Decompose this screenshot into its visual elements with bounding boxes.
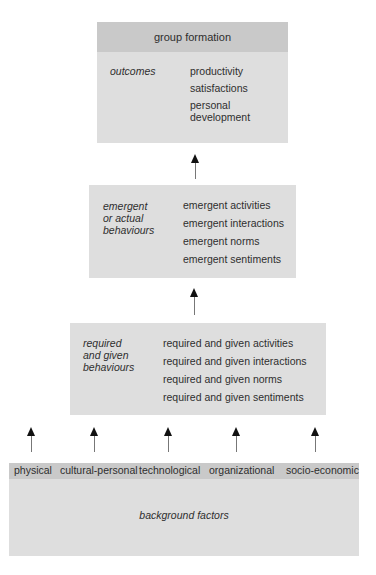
up-arrow-icon bbox=[191, 154, 200, 179]
required-item: required and given interactions bbox=[163, 355, 307, 368]
up-arrow-icon bbox=[27, 427, 36, 452]
factor-organizational: organizational bbox=[209, 464, 274, 477]
factor-physical: physical bbox=[14, 464, 52, 477]
required-item: required and given sentiments bbox=[163, 391, 304, 404]
emergent-item: emergent activities bbox=[183, 199, 271, 212]
outcome-item: satisfactions bbox=[190, 82, 248, 95]
emergent-item: emergent interactions bbox=[183, 217, 284, 230]
up-arrow-icon bbox=[190, 288, 199, 315]
background-factors-label: background factors bbox=[9, 509, 359, 522]
required-item: required and given activities bbox=[163, 337, 293, 350]
emergent-item: emergent sentiments bbox=[183, 253, 281, 266]
up-arrow-icon bbox=[311, 427, 320, 452]
emergent-label-line: behaviours bbox=[103, 224, 154, 237]
emergent-item: emergent norms bbox=[183, 235, 259, 248]
outcome-item: productivity bbox=[190, 65, 243, 78]
factor-cultural-personal: cultural-personal bbox=[60, 464, 138, 477]
outcome-item: development bbox=[190, 111, 250, 124]
required-item: required and given norms bbox=[163, 373, 282, 386]
factor-socio-economic: socio-economic bbox=[286, 464, 359, 477]
outcomes-label: outcomes bbox=[110, 65, 156, 78]
up-arrow-icon bbox=[164, 427, 173, 452]
required-label-line: behaviours bbox=[83, 361, 134, 374]
up-arrow-icon bbox=[90, 427, 99, 452]
group-formation-title: group formation bbox=[97, 31, 288, 44]
up-arrow-icon bbox=[232, 427, 241, 452]
factor-technological: technological bbox=[139, 464, 200, 477]
